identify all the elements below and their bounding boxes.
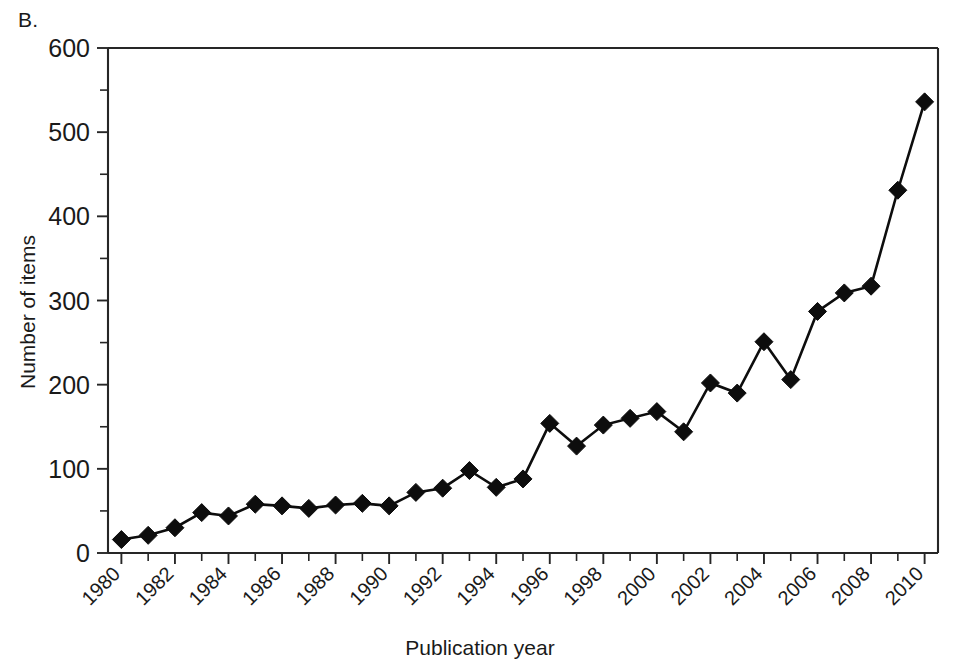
data-point-marker bbox=[862, 277, 880, 295]
data-point-marker bbox=[273, 497, 291, 515]
data-point-marker bbox=[487, 478, 505, 496]
x-tick-label: 1992 bbox=[398, 562, 445, 609]
y-tick-label: 400 bbox=[48, 202, 90, 230]
data-point-marker bbox=[112, 531, 130, 549]
data-point-marker bbox=[407, 483, 425, 501]
data-point-marker bbox=[782, 371, 800, 389]
data-point-marker bbox=[166, 519, 184, 537]
x-tick-label: 2006 bbox=[773, 562, 820, 609]
data-point-marker bbox=[755, 333, 773, 351]
data-point-marker bbox=[219, 507, 237, 525]
x-tick-label: 2010 bbox=[880, 562, 927, 609]
x-tick-label: 1980 bbox=[77, 562, 124, 609]
y-axis-label: Number of items bbox=[16, 192, 40, 432]
data-point-marker bbox=[246, 495, 264, 513]
x-tick-label: 2008 bbox=[827, 562, 874, 609]
data-point-marker bbox=[701, 374, 719, 392]
data-point-marker bbox=[916, 93, 934, 111]
x-tick-label: 2000 bbox=[613, 562, 660, 609]
x-tick-label: 1998 bbox=[559, 562, 606, 609]
x-tick-label: 1996 bbox=[506, 562, 553, 609]
data-point-marker bbox=[193, 504, 211, 522]
x-tick-label: 2004 bbox=[720, 562, 767, 609]
data-point-marker bbox=[728, 384, 746, 402]
data-point-marker bbox=[835, 284, 853, 302]
data-point-marker bbox=[809, 302, 827, 320]
line-chart-canvas: 0100200300400500600 19801982198419861988… bbox=[0, 0, 960, 672]
data-point-marker bbox=[353, 494, 371, 512]
data-point-marker bbox=[514, 470, 532, 488]
data-point-marker bbox=[460, 462, 478, 480]
x-tick-label: 1986 bbox=[238, 562, 285, 609]
chart-ticks bbox=[97, 48, 925, 564]
y-tick-label: 100 bbox=[48, 455, 90, 483]
x-tick-label: 1988 bbox=[291, 562, 338, 609]
data-point-marker bbox=[139, 526, 157, 544]
y-tick-label: 600 bbox=[48, 34, 90, 62]
x-tick-labels: 1980198219841986198819901992199419961998… bbox=[77, 562, 927, 609]
figure-panel-b: B. 0100200300400500600 19801982198419861… bbox=[0, 0, 960, 672]
data-point-marker bbox=[434, 479, 452, 497]
data-point-marker bbox=[889, 181, 907, 199]
data-point-marker bbox=[300, 499, 318, 517]
y-tick-label: 300 bbox=[48, 287, 90, 315]
y-tick-label: 500 bbox=[48, 118, 90, 146]
data-series-markers bbox=[112, 93, 933, 549]
x-tick-label: 1982 bbox=[131, 562, 178, 609]
x-axis-label: Publication year bbox=[0, 636, 960, 660]
x-tick-label: 1990 bbox=[345, 562, 392, 609]
data-point-marker bbox=[380, 497, 398, 515]
x-tick-label: 1994 bbox=[452, 562, 499, 609]
panel-label: B. bbox=[18, 8, 38, 32]
data-point-marker bbox=[621, 409, 639, 427]
y-tick-label: 0 bbox=[76, 539, 90, 567]
y-tick-labels: 0100200300400500600 bbox=[48, 34, 90, 567]
x-tick-label: 1984 bbox=[184, 562, 231, 609]
x-tick-label: 2002 bbox=[666, 562, 713, 609]
y-tick-label: 200 bbox=[48, 371, 90, 399]
data-point-marker bbox=[327, 496, 345, 514]
